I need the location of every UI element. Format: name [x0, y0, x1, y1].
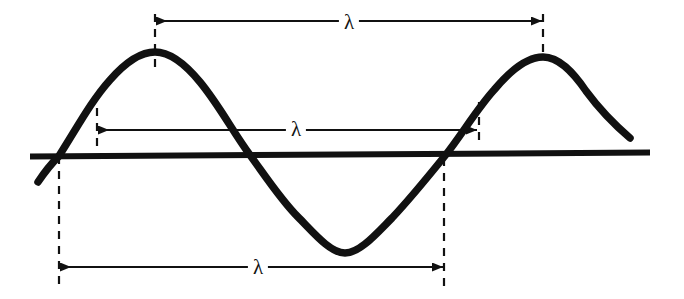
lambda-label-bottom: λ: [248, 257, 268, 278]
baseline-axis: [30, 153, 650, 157]
lambda-label-middle: λ: [286, 119, 306, 140]
wavelength-diagram: λ λ λ: [0, 0, 684, 299]
wave-diagram-canvas: [0, 0, 684, 299]
lambda-label-top: λ: [339, 12, 359, 33]
